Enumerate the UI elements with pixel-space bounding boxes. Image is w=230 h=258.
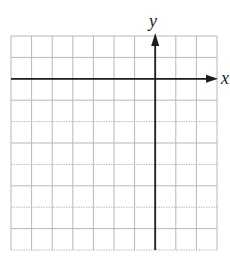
y-axis-label: y xyxy=(149,12,157,30)
x-axis-label: x xyxy=(221,69,229,87)
grid-lines xyxy=(11,36,217,250)
y-axis-arrowhead-icon xyxy=(151,33,159,46)
x-axis-arrowhead-icon xyxy=(206,75,218,83)
coordinate-grid xyxy=(0,0,230,258)
